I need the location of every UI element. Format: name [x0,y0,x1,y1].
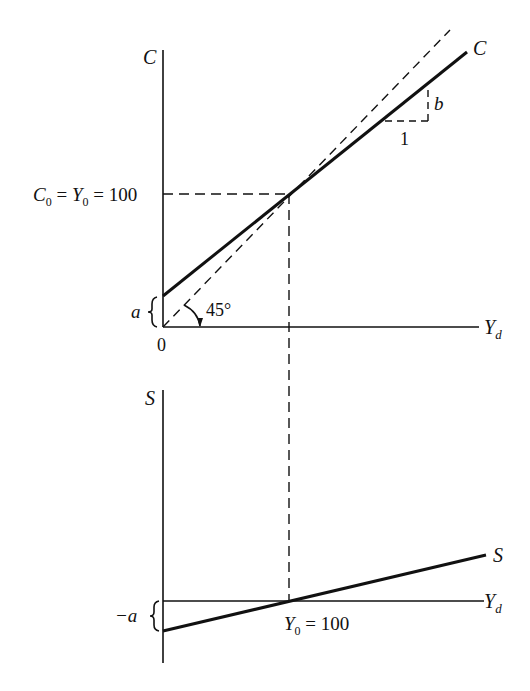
consumption-line-label: C [473,37,487,59]
consumption-saving-diagram: C C0 = Y0 = 100 a 45° 0 Yd C b 1 S −a S … [0,0,530,691]
intercept-brace-icon [148,297,157,327]
equilibrium-value-label: C0 = Y0 = 100 [33,184,137,209]
angle-label: 45° [206,300,231,320]
angle-arc [184,305,200,326]
consumption-line [163,52,467,296]
slope-one-label: 1 [400,129,409,149]
c-axis-label: C [143,46,157,68]
negative-a-label: −a [115,605,137,626]
y0-equilibrium-label: Y0 = 100 [284,613,349,638]
s-axis-label: S [145,387,155,409]
intercept-a-label: a [131,301,141,322]
origin-label: 0 [157,335,166,355]
saving-line-label: S [493,544,503,566]
angle-arrowhead-icon [197,318,203,327]
yd-axis-label-bottom: Yd [484,590,502,616]
forty-five-degree-line [163,30,450,327]
bottom-panel: S −a S Yd Y0 = 100 [115,387,503,663]
yd-axis-label-top: Yd [484,316,502,342]
negative-intercept-brace-icon [150,601,159,631]
slope-b-label: b [434,93,444,114]
top-panel: C C0 = Y0 = 100 a 45° 0 Yd C b 1 [33,30,502,601]
